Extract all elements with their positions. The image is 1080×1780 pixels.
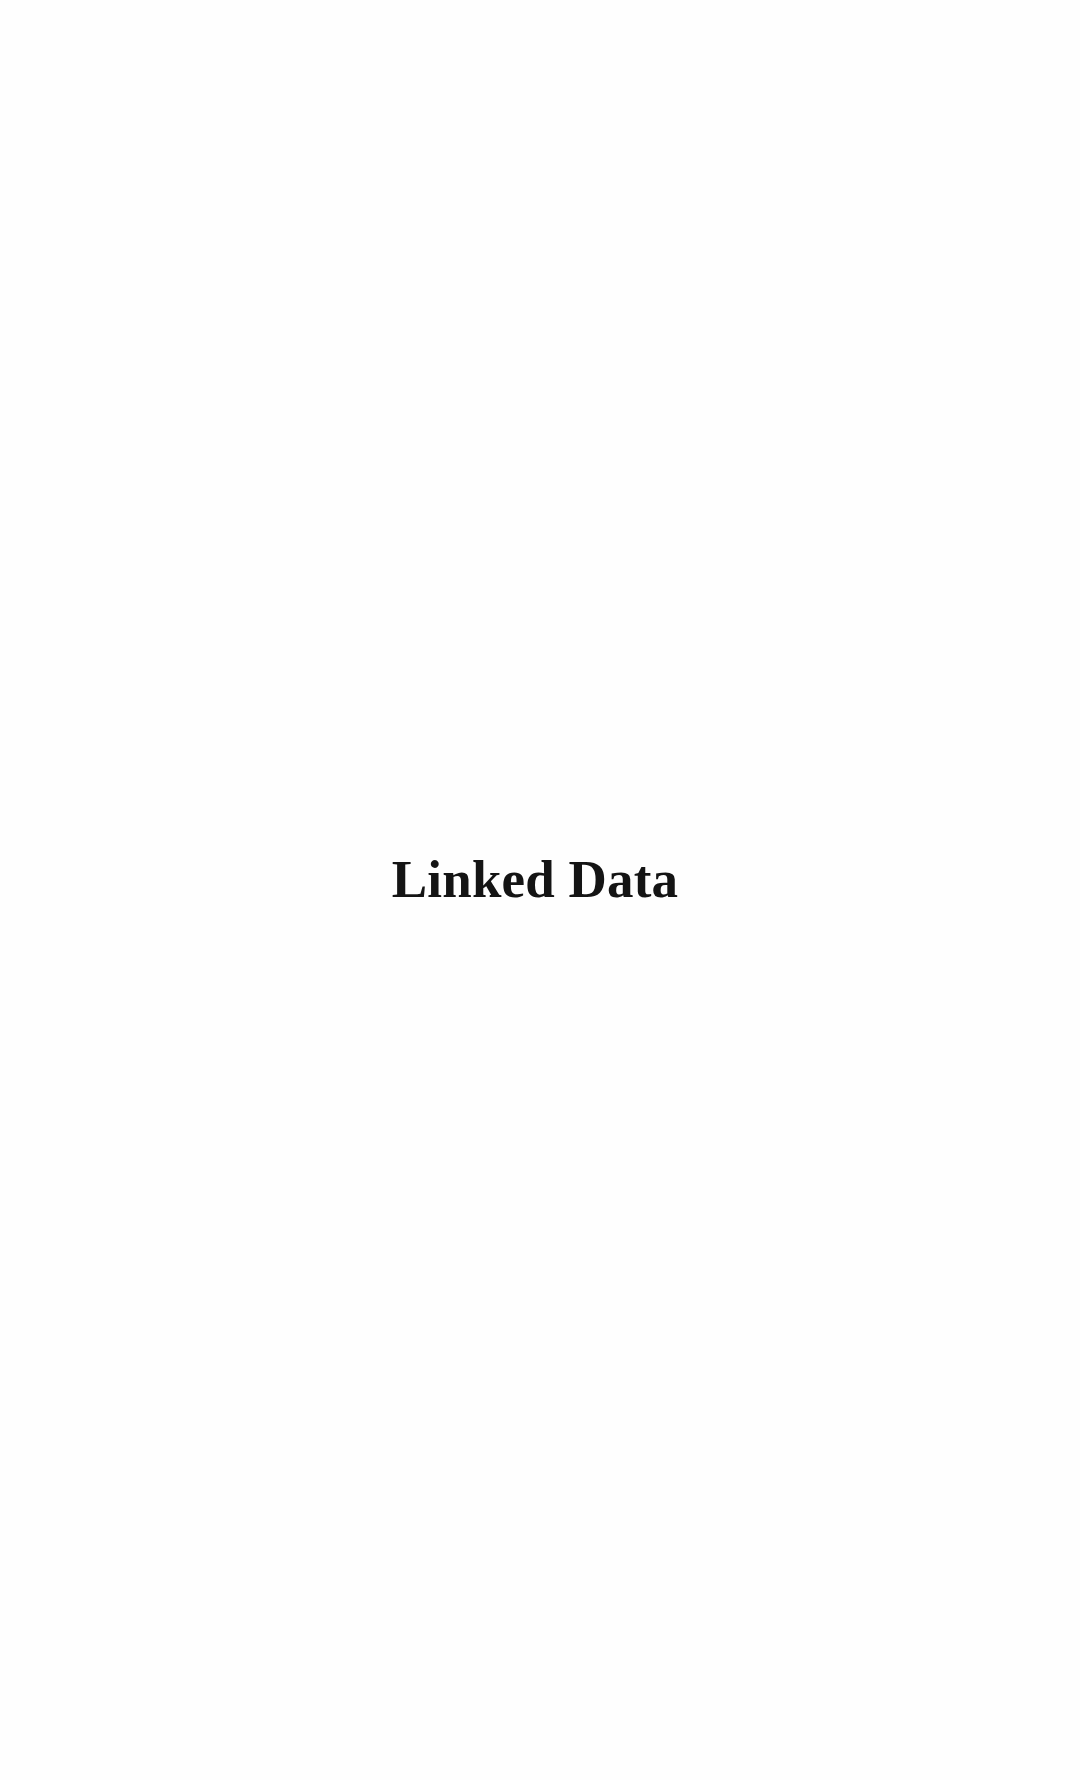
title-page: Linked Data [0, 0, 1080, 1780]
page-title: Linked Data [0, 851, 1070, 907]
